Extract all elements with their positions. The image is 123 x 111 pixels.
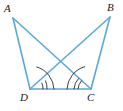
diagonal-AC-line <box>13 18 91 89</box>
vertex-label-c: C <box>87 92 94 103</box>
vertex-label-b: B <box>107 2 114 13</box>
geometry-canvas <box>0 0 123 111</box>
geometry-figure: A B D C <box>0 0 123 111</box>
side-BC-line <box>91 17 110 89</box>
angle-BDC-double-arc-outer <box>46 81 47 89</box>
angle-mark-group <box>37 67 85 89</box>
vertex-label-a: A <box>4 3 11 14</box>
angle-BDC-double-arc-inner <box>42 83 43 89</box>
segment-group <box>13 17 110 89</box>
angle-ACD-double-arc-inner <box>78 81 81 89</box>
side-AD-line <box>13 18 30 89</box>
vertex-label-d: D <box>20 92 28 103</box>
